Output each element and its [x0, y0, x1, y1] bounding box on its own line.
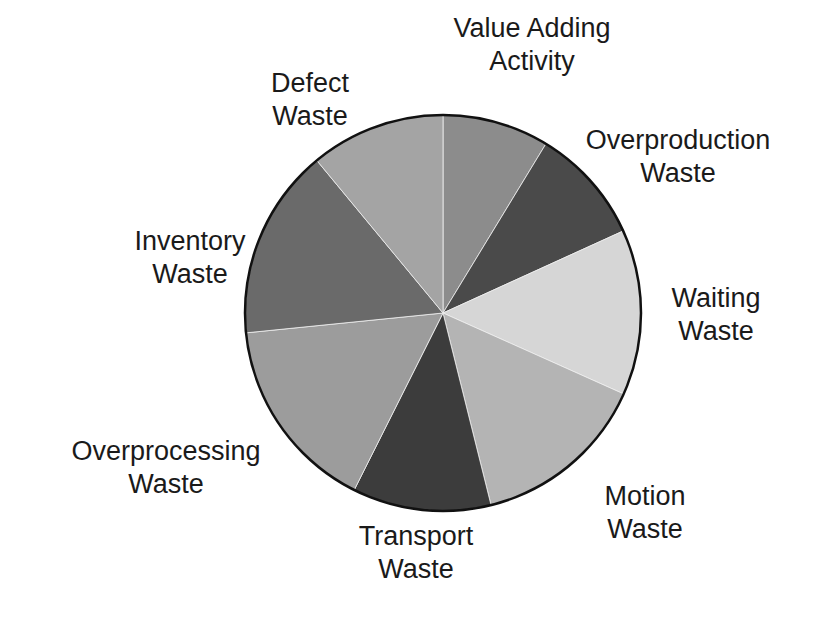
slice-label-line2: Waste	[271, 100, 349, 133]
slice-label: InventoryWaste	[134, 225, 245, 291]
slice-label-line2: Activity	[453, 45, 610, 78]
slice-label-line2: Waste	[586, 157, 771, 190]
slice-label: Value AddingActivity	[453, 12, 610, 78]
slice-label: OverprocessingWaste	[71, 435, 260, 501]
slice-label: TransportWaste	[359, 520, 474, 586]
slice-label: DefectWaste	[271, 67, 349, 133]
slice-label-line1: Waiting	[671, 282, 760, 315]
slice-label: OverproductionWaste	[586, 124, 771, 190]
slice-label: WaitingWaste	[671, 282, 760, 348]
slice-label-line2: Waste	[604, 513, 685, 546]
slice-label-line1: Defect	[271, 67, 349, 100]
slice-label-line1: Overproduction	[586, 124, 771, 157]
slice-label-line1: Transport	[359, 520, 474, 553]
slice-label: MotionWaste	[604, 480, 685, 546]
slice-label-line1: Value Adding	[453, 12, 610, 45]
slice-label-line2: Waste	[71, 468, 260, 501]
pie-slices	[245, 115, 641, 511]
slice-label-line2: Waste	[359, 553, 474, 586]
slice-label-line1: Inventory	[134, 225, 245, 258]
slice-label-line2: Waste	[134, 258, 245, 291]
slice-label-line1: Overprocessing	[71, 435, 260, 468]
slice-label-line1: Motion	[604, 480, 685, 513]
slice-label-line2: Waste	[671, 315, 760, 348]
